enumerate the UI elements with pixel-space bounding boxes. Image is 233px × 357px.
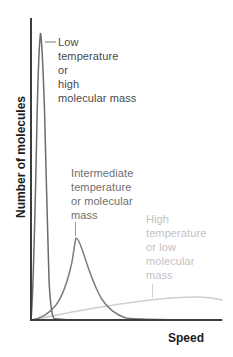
- x-axis-title: Speed: [168, 331, 204, 345]
- maxwell-boltzmann-figure: Low temperature or high molecular mass I…: [0, 0, 233, 357]
- annotation-low-temperature: Low temperature or high molecular mass: [58, 35, 136, 105]
- annotation-intermediate-temperature: Intermediate temperature or molecular ma…: [71, 166, 133, 222]
- y-axis-title: Number of molecules: [14, 92, 28, 222]
- annotation-high-temperature: High temperature or low molecular mass: [146, 212, 206, 282]
